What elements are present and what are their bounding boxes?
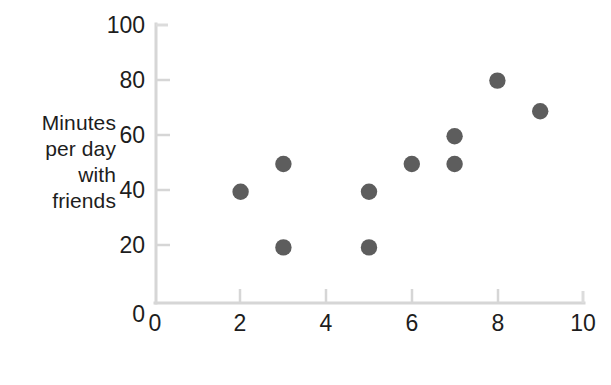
data-point <box>489 72 505 88</box>
data-point <box>446 128 462 144</box>
plot-area <box>0 0 611 385</box>
data-point <box>361 239 377 255</box>
data-point <box>532 103 548 119</box>
data-point <box>404 156 420 172</box>
data-point <box>232 184 248 200</box>
scatter-plot: Minutes per day with friends 100 80 60 4… <box>0 0 611 385</box>
data-point <box>275 156 291 172</box>
data-point <box>361 184 377 200</box>
data-point <box>275 239 291 255</box>
data-point-group <box>232 72 548 255</box>
x-axis-ticks <box>240 289 498 302</box>
data-point <box>446 156 462 172</box>
y-axis-ticks <box>157 80 170 245</box>
axis-lines <box>155 24 584 303</box>
